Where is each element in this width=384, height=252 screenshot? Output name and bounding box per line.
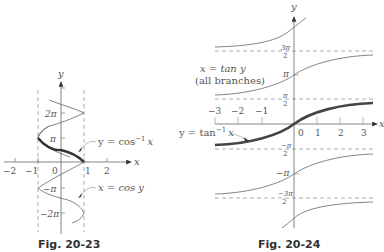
svg-text:2: 2 <box>283 150 287 158</box>
arrowhead-cos <box>78 193 82 198</box>
svg-text:3π: 3π <box>281 44 290 52</box>
svg-text:−3π: −3π <box>278 190 293 198</box>
svg-text:2: 2 <box>282 198 286 206</box>
x-tick-label: 1 <box>315 128 321 138</box>
x-tick-label: −2 <box>231 106 244 116</box>
figure-20-23: y x −2 −1 0 1 2 2π π −π −2π y = cos−1x x… <box>3 68 153 251</box>
x-tick-label: 2 <box>104 166 110 176</box>
x-tick-label: −1 <box>25 166 38 176</box>
x-tick-label: −2 <box>3 166 16 176</box>
leader-line-cos <box>80 187 96 196</box>
y-tick-label: −2π <box>40 209 60 219</box>
svg-text:π: π <box>282 92 288 100</box>
x-tick-label: 3 <box>361 128 367 138</box>
y-axis-label: y <box>290 1 297 12</box>
y-tick-label: −π <box>43 184 58 194</box>
y-tick-label: 2π <box>44 109 58 119</box>
x-tick-label: 0 <box>298 128 304 138</box>
y-tick-3pi-over-2: 3π 2 <box>281 44 290 60</box>
figure-caption: Fig. 20-23 <box>38 238 100 251</box>
figure-caption: Fig. 20-24 <box>258 238 321 251</box>
y-tick-neg-pi-over-2: −π 2 <box>281 142 292 158</box>
curve-label-tan-line2: (all branches) <box>195 75 265 86</box>
x-tick-label: −3 <box>208 106 222 116</box>
y-tick-label: π <box>49 134 57 144</box>
figures-canvas: y x −2 −1 0 1 2 2π π −π −2π y = cos−1x x… <box>0 0 384 252</box>
y-tick-pi: π <box>282 69 290 79</box>
y-tick-pi-over-2: π 2 <box>282 92 288 108</box>
svg-text:−π: −π <box>281 142 292 150</box>
figure-20-24: y x −3 −2 −1 0 1 2 3 3π 2 π π 2 −π 2 −π … <box>178 1 384 251</box>
y-tick-neg-pi: −π <box>276 168 291 178</box>
leader-line-arctan <box>232 134 246 140</box>
curve-label-arccos: y = cos−1x <box>97 135 153 147</box>
x-axis-label: x <box>379 118 384 129</box>
arrowhead-arccos <box>78 147 82 152</box>
x-axis-label: x <box>134 156 140 167</box>
x-ticks <box>215 117 363 124</box>
x-tick-label: 0 <box>52 166 58 176</box>
x-tick-label: 1 <box>85 166 91 176</box>
curve-label-tan-line1: x = tan y <box>200 63 246 74</box>
svg-text:2: 2 <box>283 52 287 60</box>
curve-x-equals-cos-y-upper <box>38 126 50 138</box>
svg-text:2: 2 <box>283 100 287 108</box>
x-tick-label: 2 <box>338 128 344 138</box>
x-tick-label: −1 <box>255 106 268 116</box>
curve-label-arctan: y = tan−1x <box>178 126 234 138</box>
curve-label-cos: x = cos y <box>98 182 144 193</box>
y-axis-label: y <box>57 68 64 79</box>
leader-line-arccos <box>80 141 96 150</box>
